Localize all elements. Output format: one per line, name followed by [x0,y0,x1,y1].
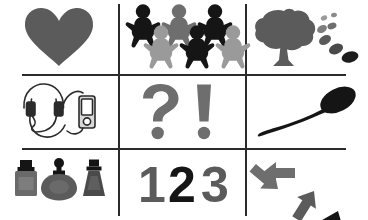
heart-icon [22,6,96,68]
cell-arrows[interactable] [247,150,368,220]
cell-gingerbread-people[interactable] [120,0,245,74]
arrow-up-left [315,207,348,220]
cell-numbers[interactable]: 1 2 3 [120,150,245,220]
arrow-up-right [287,185,323,220]
perfume-bottle-trapezoid [83,160,105,197]
question-and-exclamation-mark-icon [131,83,235,141]
numbers-one-two-three-icon: 1 2 3 [128,156,238,214]
digit-one: 1 [138,157,166,213]
gingerbread-people-icon [125,4,241,70]
digit-three: 3 [201,157,229,213]
cell-heart[interactable] [0,0,118,74]
picture-symbol-grid: 1 2 3 [0,0,368,220]
spoon-icon [254,85,362,139]
cell-punctuation[interactable] [120,76,245,148]
perfume-bottles-icon [11,157,107,213]
scattered-arrows-icon [256,155,360,215]
cell-perfume-bottles[interactable] [0,150,118,220]
cell-headphones-player[interactable] [0,76,118,148]
cell-spoon[interactable] [247,76,368,148]
perfume-bottle-round [41,158,77,201]
headphones-with-music-player-icon [11,81,107,143]
cell-tree-leaves[interactable] [247,0,368,74]
tree-with-falling-leaves-icon [252,5,364,69]
perfume-bottle-square [15,160,37,196]
digit-two: 2 [168,157,196,213]
arrow-down-right [245,159,284,197]
